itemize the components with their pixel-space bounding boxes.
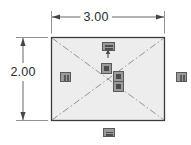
arrowhead-height-bottom-icon (20, 112, 25, 120)
handle-center-lower[interactable] (113, 81, 124, 92)
handle-center-top-glyph-icon (105, 45, 113, 47)
handle-center-top-glyph2-icon (105, 48, 113, 50)
dimension-height-label[interactable]: 2.00 (8, 65, 37, 80)
handle-center-top[interactable] (102, 42, 115, 51)
dimension-width-label[interactable]: 3.00 (80, 11, 111, 24)
cad-drawing-canvas: 3.00 2.00 (0, 0, 191, 145)
arrowhead-width-right-icon (156, 14, 164, 19)
handle-center-upper-glyph-icon (104, 66, 109, 71)
handle-bottom-glyph-icon (106, 132, 113, 134)
arrowhead-height-top-icon (20, 38, 25, 46)
handle-left-glyph2-icon (67, 75, 69, 81)
handle-left[interactable] (60, 72, 71, 82)
handle-center-upper[interactable] (101, 63, 112, 74)
handle-center-lower-glyph-icon (116, 84, 121, 89)
handle-left-glyph-icon (64, 75, 66, 81)
handle-right-glyph2-icon (183, 75, 185, 81)
handle-bottom[interactable] (103, 128, 115, 137)
handle-right[interactable] (176, 72, 187, 82)
handle-bottom-glyph2-icon (106, 134, 113, 136)
handle-center-right-glyph-icon (116, 74, 121, 79)
arrowhead-width-left-icon (52, 14, 60, 19)
handle-right-glyph-icon (180, 75, 182, 81)
